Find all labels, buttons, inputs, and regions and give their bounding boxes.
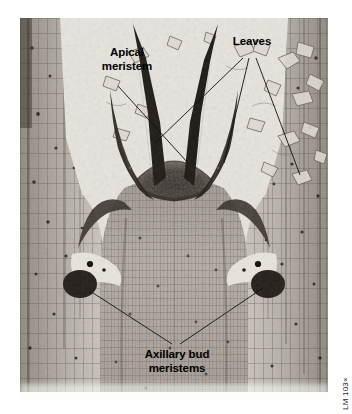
label-axillary-line1: Axillary bud bbox=[122, 348, 232, 362]
magnification-text: LM 103× bbox=[341, 377, 350, 410]
label-axillary-bud-meristems: Axillary bud meristems bbox=[122, 348, 232, 375]
label-apical-meristem-line2: meristem bbox=[92, 60, 162, 74]
label-apical-meristem: Apical meristem bbox=[92, 46, 162, 73]
micrograph-plate bbox=[20, 18, 328, 400]
micrograph-image bbox=[20, 18, 328, 400]
label-axillary-line2: meristems bbox=[122, 362, 232, 376]
figure-micrograph-shoot-tip: Apical meristem Leaves Axillary bud meri… bbox=[0, 0, 352, 414]
label-leaves: Leaves bbox=[222, 35, 282, 49]
magnification-caption: LM 103× bbox=[338, 318, 352, 398]
label-apical-meristem-line1: Apical bbox=[92, 46, 162, 60]
